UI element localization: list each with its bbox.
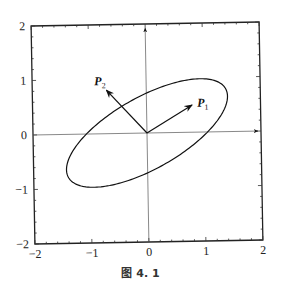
y-tick-label: 1 <box>20 74 26 88</box>
figure-caption: 图 4. 1 <box>0 264 281 280</box>
vector-label-p1: P1 <box>197 96 209 112</box>
coordinate-axes <box>31 26 260 244</box>
y-axis-line <box>145 28 149 242</box>
vector-p1 <box>147 105 193 133</box>
vector-subscript: 1 <box>204 103 208 112</box>
vectors-group: P1P2 <box>94 72 209 134</box>
vector-label-p2: P2 <box>94 74 106 90</box>
y-tick-label: 0 <box>21 128 27 142</box>
x-tick-label: 2 <box>260 243 266 257</box>
y-tick-label: 2 <box>19 19 25 33</box>
tick-labels: −2−1012−2−1012 <box>12 15 266 261</box>
y-tick-label: −1 <box>15 183 28 197</box>
x-tick-label: 1 <box>203 244 209 258</box>
x-tick-label: −1 <box>86 246 99 260</box>
y-tick-label: −2 <box>16 237 29 251</box>
vector-subscript: 2 <box>102 81 106 90</box>
figure-plot: P1P2 −2−1012−2−1012 <box>0 0 281 294</box>
x-tick-label: −2 <box>29 247 42 261</box>
x-tick-label: 0 <box>146 245 152 259</box>
